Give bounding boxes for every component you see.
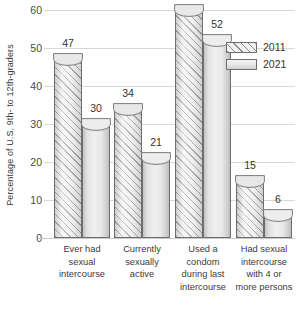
y-axis-tick-labels: 0102030405060 [12, 10, 42, 238]
bar-value-label: 47 [62, 37, 74, 49]
category-label-line: condom [169, 256, 237, 269]
category-label-line: intercourse [230, 256, 298, 269]
y-tick-label: 50 [16, 42, 42, 54]
category-label-line: with 4 or [230, 268, 298, 281]
bar-2021-1: 30 [82, 118, 110, 238]
bar-chart: Percentage of U.S. 9th- to 12th-graders … [0, 0, 307, 309]
category-label-line: during last [169, 268, 237, 281]
bar-body [264, 215, 292, 238]
category-label-line: Had sexual [230, 243, 298, 256]
legend-swatch [226, 42, 257, 53]
bar-value-label: 15 [244, 159, 256, 171]
category-label-line: Currently [108, 243, 176, 256]
bar-value-label: 21 [150, 136, 162, 148]
legend-label: 2011 [263, 41, 286, 53]
y-tick-label: 40 [16, 80, 42, 92]
bar-body [82, 124, 110, 238]
category-label-line: sexually [108, 256, 176, 269]
bar-2011-1: 47 [54, 53, 82, 238]
bar-2021-4: 6 [264, 209, 292, 238]
bar-body [142, 158, 170, 238]
bar-body [54, 59, 82, 238]
category-label-line: Used a [169, 243, 237, 256]
bar-value-label: 34 [122, 87, 134, 99]
gridline [44, 10, 295, 11]
bar-body [236, 181, 264, 238]
legend-label: 2021 [263, 58, 286, 70]
bar-body [114, 109, 142, 238]
category-label-4: Had sexualintercoursewith 4 ormore perso… [230, 243, 298, 293]
category-label-line: intercourse [169, 281, 237, 294]
bar-value-label: 30 [90, 102, 102, 114]
y-tick-label: 20 [16, 156, 42, 168]
category-label-line: Ever had [48, 243, 116, 256]
legend-swatch [226, 59, 257, 70]
category-label-1: Ever hadsexualintercourse [48, 243, 116, 281]
y-tick-label: 30 [16, 118, 42, 130]
category-label-line: intercourse [48, 268, 116, 281]
bar-2011-3: 60 [175, 4, 203, 238]
x-axis-category-labels: Ever hadsexualintercourseCurrentlysexual… [44, 243, 295, 307]
x-axis-baseline [38, 238, 295, 239]
legend: 20112021 [226, 40, 300, 74]
bar-2011-4: 15 [236, 175, 264, 238]
category-label-line: active [108, 268, 176, 281]
category-label-line: sexual [48, 256, 116, 269]
bar-2021-2: 21 [142, 152, 170, 238]
bar-2011-2: 34 [114, 103, 142, 238]
legend-item-2011: 2011 [226, 40, 300, 54]
bar-value-label: 6 [275, 193, 281, 205]
category-label-line: more persons [230, 281, 298, 294]
bar-body [175, 10, 203, 238]
y-tick-label: 10 [16, 194, 42, 206]
category-label-2: Currentlysexuallyactive [108, 243, 176, 281]
category-label-3: Used acondomduring lastintercourse [169, 243, 237, 293]
y-tick-label: 60 [16, 4, 42, 16]
legend-item-2021: 2021 [226, 57, 300, 71]
bar-value-label: 52 [211, 18, 223, 30]
